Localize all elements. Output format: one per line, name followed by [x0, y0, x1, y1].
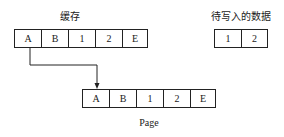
page-label: Page	[139, 117, 158, 129]
page-cell: 2	[164, 90, 191, 107]
page-cell: 1	[137, 90, 164, 107]
page-cell: A	[83, 90, 110, 107]
page-cell: E	[191, 90, 215, 107]
page-cell: B	[110, 90, 137, 107]
page-row: A B 1 2 E	[82, 89, 216, 108]
